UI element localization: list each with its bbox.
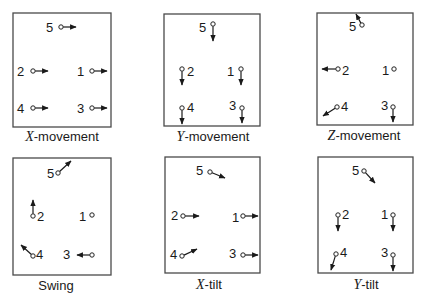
point-circle-icon — [362, 169, 366, 173]
point-number-label: 4 — [170, 247, 177, 262]
marker-point-4: 4 — [21, 245, 43, 262]
point-circle-icon — [336, 67, 340, 71]
point-circle-icon — [391, 213, 395, 217]
displacement-arrow-icon — [356, 14, 361, 23]
marker-point-3: 3 — [63, 247, 94, 262]
point-circle-icon — [391, 105, 395, 109]
marker-point-3: 3 — [381, 245, 395, 271]
panel-caption: X-tilt — [195, 277, 222, 292]
point-circle-icon — [208, 170, 212, 174]
point-number-label: 3 — [381, 98, 388, 113]
point-circle-icon — [180, 254, 184, 258]
point-number-label: 3 — [229, 98, 236, 113]
panel-frame — [13, 13, 111, 127]
marker-point-1: 1 — [77, 64, 107, 79]
point-number-label: 2 — [187, 64, 194, 79]
marker-point-3: 3 — [77, 101, 107, 116]
point-number-label: 5 — [47, 166, 54, 181]
point-number-label: 2 — [17, 64, 24, 79]
marker-point-2: 2 — [31, 200, 44, 224]
marker-point-1: 1 — [232, 210, 258, 225]
panel-x-movement: 52143X-movement — [13, 13, 111, 144]
point-circle-icon — [239, 67, 243, 71]
panel-frame — [164, 14, 260, 126]
point-number-label: 5 — [349, 19, 356, 34]
point-number-label: 5 — [352, 163, 359, 178]
point-circle-icon — [241, 214, 245, 218]
point-number-label: 1 — [79, 209, 86, 224]
marker-point-5: 5 — [196, 163, 225, 178]
point-number-label: 4 — [17, 101, 24, 116]
point-circle-icon — [180, 106, 184, 110]
point-number-label: 5 — [46, 20, 53, 35]
displacement-arrow-icon — [21, 245, 31, 255]
point-number-label: 5 — [199, 20, 206, 35]
point-number-label: 1 — [232, 210, 239, 225]
point-circle-icon — [211, 22, 215, 26]
point-circle-icon — [90, 106, 94, 110]
panel-frame — [13, 158, 111, 275]
point-circle-icon — [240, 106, 244, 110]
panel-frame — [318, 157, 413, 273]
point-number-label: 3 — [229, 246, 236, 261]
point-number-label: 1 — [381, 207, 388, 222]
marker-point-4: 4 — [323, 99, 348, 116]
point-circle-icon — [180, 67, 184, 71]
panel-y-movement: 52143Y-movement — [164, 14, 260, 144]
marker-point-3: 3 — [229, 98, 244, 123]
panel-swing: 52143Swing — [13, 158, 111, 293]
displacement-arrow-icon — [366, 173, 376, 183]
marker-point-5: 5 — [47, 161, 71, 181]
panel-y-tilt: 52143Y-tilt — [318, 157, 413, 292]
point-number-label: 1 — [227, 64, 234, 79]
point-circle-icon — [59, 25, 63, 29]
point-circle-icon — [392, 67, 396, 71]
point-number-label: 3 — [77, 101, 84, 116]
marker-point-3: 3 — [381, 98, 395, 122]
point-number-label: 1 — [382, 63, 389, 78]
point-circle-icon — [360, 23, 364, 27]
panel-z-movement: 52143Z-movement — [317, 13, 413, 143]
marker-point-2: 2 — [171, 208, 199, 223]
marker-point-4: 4 — [180, 100, 194, 124]
marker-point-2: 2 — [322, 63, 349, 78]
marker-point-4: 4 — [170, 247, 197, 262]
marker-point-5: 5 — [349, 14, 364, 34]
marker-point-5: 5 — [199, 20, 215, 41]
point-number-label: 2 — [37, 209, 44, 224]
point-number-label: 3 — [381, 245, 388, 260]
marker-point-5: 5 — [352, 163, 375, 183]
displacement-arrow-icon — [323, 108, 335, 116]
point-number-label: 4 — [341, 99, 348, 114]
marker-point-1: 1 — [382, 63, 396, 78]
marker-point-4: 4 — [17, 101, 48, 116]
point-circle-icon — [31, 106, 35, 110]
point-circle-icon — [336, 213, 340, 217]
point-circle-icon — [335, 105, 339, 109]
panel-caption: Y-tilt — [353, 277, 379, 292]
point-circle-icon — [56, 171, 60, 175]
motion-modes-diagram: 52143X-movement52143Y-movement52143Z-mov… — [0, 0, 426, 299]
panel-x-tilt: 52143X-tilt — [165, 157, 260, 292]
marker-point-4: 4 — [331, 245, 347, 270]
point-circle-icon — [90, 253, 94, 257]
point-circle-icon — [31, 214, 35, 218]
displacement-arrow-icon — [331, 256, 335, 270]
panel-caption: X-movement — [24, 129, 99, 144]
marker-point-5: 5 — [46, 20, 76, 35]
point-circle-icon — [181, 214, 185, 218]
point-number-label: 4 — [36, 247, 43, 262]
point-number-label: 2 — [342, 207, 349, 222]
point-circle-icon — [241, 253, 245, 257]
panel-caption: Swing — [38, 278, 73, 293]
point-number-label: 2 — [342, 63, 349, 78]
marker-point-1: 1 — [227, 64, 243, 85]
marker-point-1: 1 — [381, 207, 395, 231]
displacement-arrow-icon — [60, 161, 71, 172]
point-number-label: 5 — [196, 163, 203, 178]
marker-point-2: 2 — [180, 64, 194, 85]
marker-point-3: 3 — [229, 246, 258, 261]
point-number-label: 3 — [63, 247, 70, 262]
point-circle-icon — [31, 254, 35, 258]
displacement-arrow-icon — [212, 173, 225, 178]
